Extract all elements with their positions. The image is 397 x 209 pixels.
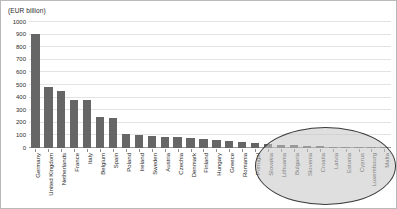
y-tick-label: 200 [16,119,26,125]
bar-slot [313,22,326,148]
x-label-slot: Latvia [326,149,339,207]
x-tick-label: Greece [229,153,235,173]
x-tick-label: Latvia [333,153,339,169]
x-label-slot: Ireland [132,149,145,207]
y-tick-label: 700 [16,56,26,62]
x-tick-label: Finland [203,153,209,173]
x-tick-label: France [74,153,80,172]
x-tick [333,149,334,152]
x-tick-label: Germany [35,153,41,178]
bar-slot [171,22,184,148]
x-tick [61,149,62,152]
bar [57,91,65,148]
bar-slot [29,22,42,148]
bar-slot [42,22,55,148]
x-label-slot: Cyprus [352,149,365,207]
bar-slot [326,22,339,148]
bar [225,141,233,148]
x-tick-label: Bulgaria [294,153,300,175]
bar [367,147,375,148]
y-tick-label: 500 [16,82,26,88]
x-label-slot: Sweden [145,149,158,207]
x-tick [48,149,49,152]
bar [264,144,272,148]
x-axis-labels: GermanyUnited KingdomNetherlandsFranceIt… [29,149,391,207]
x-tick-label: Cyprus [359,153,365,172]
x-label-slot: Denmark [184,149,197,207]
x-label-slot: Malta [378,149,391,207]
x-label-slot: Estonia [339,149,352,207]
bar-slot [145,22,158,148]
bar [341,147,349,148]
x-label-slot: Finland [197,149,210,207]
x-tick-label: Slovakia [268,153,274,176]
x-tick-label: Estonia [346,153,352,173]
bar-slot [158,22,171,148]
x-tick-label: Slovenia [307,153,313,176]
plot-area: 01002003004005006007008009001000 [29,22,391,148]
x-tick [242,149,243,152]
x-tick-label: Poland [126,153,132,172]
bar-slot [132,22,145,148]
x-tick [74,149,75,152]
x-tick-label: Ireland [139,153,145,171]
x-label-slot: Bulgaria [287,149,300,207]
x-tick-label: Netherlands [61,153,67,185]
bar-slot [184,22,197,148]
x-tick [165,149,166,152]
x-tick [126,149,127,152]
bar-slot [68,22,81,148]
x-tick [178,149,179,152]
x-tick-label: Czechia [178,153,184,175]
x-tick-label: Croatia [320,153,326,172]
x-tick-label: Belgium [100,153,106,175]
x-tick [87,149,88,152]
x-tick [139,149,140,152]
bar [148,136,156,148]
bar-slot [287,22,300,148]
x-label-slot: Greece [223,149,236,207]
bar-slot [197,22,210,148]
x-tick [152,149,153,152]
x-label-slot: Portugal [249,149,262,207]
x-label-slot: Czechia [171,149,184,207]
y-tick-label: 100 [16,132,26,138]
x-label-slot: France [68,149,81,207]
bar-slot [236,22,249,148]
x-label-slot: Slovenia [300,149,313,207]
y-tick-label: 0 [23,145,26,151]
y-tick-label: 1000 [13,19,26,25]
bar [354,147,362,148]
x-tick-label: Hungary [216,153,222,176]
x-tick [359,149,360,152]
x-label-slot: United Kingdom [42,149,55,207]
bar-slot [262,22,275,148]
x-tick [268,149,269,152]
bar-slot [55,22,68,148]
x-tick-label: Romania [242,153,248,177]
x-tick [346,149,347,152]
bar [31,34,39,148]
x-tick [281,149,282,152]
x-label-slot: Netherlands [55,149,68,207]
x-label-slot: Lithuania [275,149,288,207]
axis-unit-title: (EUR billion) [8,7,46,14]
y-tick-label: 800 [16,44,26,50]
y-tick-label: 900 [16,31,26,37]
y-tick-label: 300 [16,107,26,113]
bar [199,139,207,148]
x-label-slot: Hungary [210,149,223,207]
bar-slot [210,22,223,148]
x-tick [113,149,114,152]
bar-slot [339,22,352,148]
x-tick-label: Malta [384,153,390,168]
bar [135,135,143,148]
x-label-slot: Croatia [313,149,326,207]
bar-slot [378,22,391,148]
bar-slot [94,22,107,148]
bar [303,146,311,148]
x-label-slot: Poland [119,149,132,207]
bar-slot [275,22,288,148]
bar [96,117,104,148]
bar-slot [300,22,313,148]
